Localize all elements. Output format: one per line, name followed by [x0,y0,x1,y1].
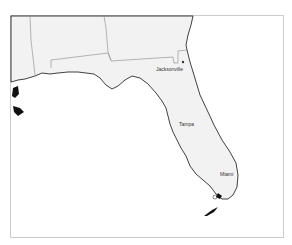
map-view[interactable]: Jacksonville Tampa Miami [0,0,292,245]
city-label-miami: Miami [220,172,233,177]
florida-map-svg [0,0,292,245]
city-marker [182,61,184,63]
city-label-tampa: Tampa [179,122,194,127]
city-label-jacksonville: Jacksonville [156,67,183,72]
